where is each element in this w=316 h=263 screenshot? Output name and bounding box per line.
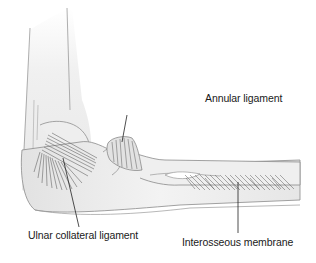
elbow-anatomy-illustration: Annular ligament Ulnar collateral ligame… <box>0 0 316 263</box>
label-interosseous-membrane: Interosseous membrane <box>182 236 293 248</box>
label-annular-ligament: Annular ligament <box>205 92 282 104</box>
anatomy-drawing <box>0 0 316 263</box>
label-ulnar-collateral-ligament: Ulnar collateral ligament <box>28 229 138 241</box>
